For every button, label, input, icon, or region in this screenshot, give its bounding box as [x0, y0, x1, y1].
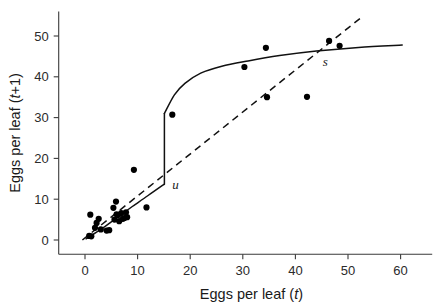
- y-tick-label: 50: [34, 29, 48, 44]
- figure-container: 0102030405060 01020304050 us Eggs per le…: [0, 0, 439, 307]
- data-point: [326, 38, 332, 44]
- y-axis-ticks: 01020304050: [34, 29, 58, 248]
- data-point: [131, 167, 137, 173]
- data-point: [87, 212, 93, 218]
- y-tick-label: 0: [41, 233, 48, 248]
- y-axis-title: Eggs per leaf (t+1): [7, 73, 23, 193]
- data-point: [241, 64, 247, 70]
- data-point: [96, 216, 102, 222]
- data-point: [143, 204, 149, 210]
- data-point: [98, 226, 104, 232]
- y-tick-label: 30: [34, 110, 48, 125]
- data-point: [113, 199, 119, 205]
- y-tick-label: 10: [34, 192, 48, 207]
- x-tick-label: 20: [183, 263, 197, 278]
- x-tick-label: 10: [130, 263, 144, 278]
- data-point: [106, 227, 112, 233]
- data-point: [304, 94, 310, 100]
- scatter-plot: 0102030405060 01020304050 us Eggs per le…: [0, 0, 439, 307]
- x-tick-label: 40: [288, 263, 302, 278]
- y-tick-label: 20: [34, 151, 48, 166]
- x-tick-label: 50: [341, 263, 355, 278]
- annotation-stable-equilibrium: s: [323, 54, 328, 69]
- data-point: [264, 94, 270, 100]
- x-tick-label: 60: [393, 263, 407, 278]
- x-tick-label: 30: [236, 263, 250, 278]
- data-point: [169, 112, 175, 118]
- annotation-unstable-equilibrium: u: [172, 177, 179, 192]
- data-point: [337, 43, 343, 49]
- data-point: [88, 233, 94, 239]
- x-tick-label: 0: [81, 263, 88, 278]
- data-point: [263, 45, 269, 51]
- data-point: [124, 214, 130, 220]
- y-tick-label: 40: [34, 69, 48, 84]
- cut-off-caption: [0, 299, 439, 307]
- data-point: [110, 205, 116, 211]
- x-axis-ticks: 0102030405060: [81, 254, 407, 278]
